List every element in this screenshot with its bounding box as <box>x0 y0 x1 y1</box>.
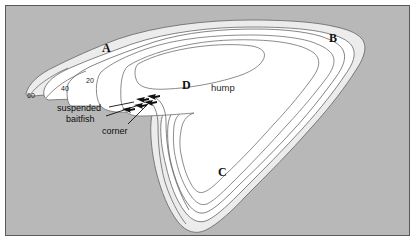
contour-map-graphic <box>6 6 409 235</box>
map-frame: A B C D 20 40 60 hump suspended baitfish… <box>5 5 410 236</box>
figure-container: A B C D 20 40 60 hump suspended baitfish… <box>0 0 417 243</box>
